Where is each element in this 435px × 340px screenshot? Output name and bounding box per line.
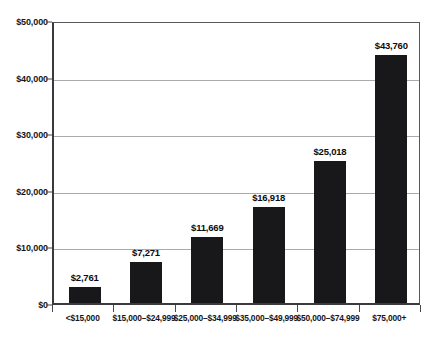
x-axis-tick-label: $35,000–$49,999 [235,313,298,323]
x-axis-tick-label: $25,000–$34,999 [174,313,237,323]
bar-group: $11,669 [177,23,238,303]
bar-chart: $50,000$40,000$30,000$20,000$10,000$0 $2… [0,0,435,340]
x-axis-tick-mark [297,305,298,312]
bar [314,161,346,303]
bar-value-label: $43,760 [375,40,408,51]
y-axis-tick-label: $10,000 [0,243,48,253]
bar-value-label: $11,669 [191,222,223,233]
bar [69,287,101,303]
plot-area: $2,761$7,271$11,669$16,918$25,018$43,760 [52,22,420,305]
x-axis-tick-label: $50,000–$74,999 [297,313,360,323]
bar-group: $43,760 [361,23,422,303]
x-axis-tick-mark [359,305,360,312]
bar-value-label: $16,918 [252,192,285,203]
bar [130,262,162,303]
x-axis-tick-mark [175,305,176,312]
bar-group: $25,018 [299,23,360,303]
x-axis-tick-mark [113,305,114,312]
y-axis-tick-label: $20,000 [0,187,48,197]
bar [191,237,223,303]
bar-value-label: $2,761 [71,272,99,283]
bar-group: $2,761 [54,23,115,303]
y-axis-tick-label: $40,000 [0,74,48,84]
bar-value-label: $7,271 [132,247,160,258]
x-axis-tick-mark [420,305,421,312]
y-axis-tick-label: $0 [0,300,48,310]
bar-group: $16,918 [238,23,299,303]
x-axis-tick-mark [52,305,53,312]
x-axis-tick-mark [236,305,237,312]
y-axis-tick-label: $30,000 [0,130,48,140]
bar-value-label: $25,018 [314,146,347,157]
bar-group: $7,271 [115,23,176,303]
x-axis-tick-label: $15,000–$24,999 [113,313,176,323]
x-axis-tick-label: $75,000+ [372,313,406,323]
chart-title-remnant [0,0,435,3]
bar [253,207,285,303]
x-axis-tick-label: <$15,000 [66,313,100,323]
y-axis-tick-label: $50,000 [0,17,48,27]
bar [375,55,407,303]
